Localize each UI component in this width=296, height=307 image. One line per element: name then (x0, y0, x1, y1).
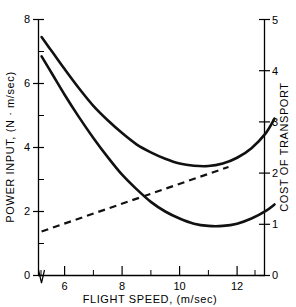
left-tick-label-6: 6 (24, 77, 30, 89)
left-axis-title: POWER INPUT, (N · m/sec) (4, 71, 16, 222)
left-tick-label-4: 4 (24, 141, 30, 153)
bottom-axis-ticks (41, 266, 255, 275)
series-power-input-lower (42, 56, 275, 226)
left-tick-label-8: 8 (24, 13, 30, 25)
bottom-tick-label-10: 10 (173, 280, 185, 292)
right-axis-title: COST OF TRANSPORT (278, 82, 290, 211)
left-axis-tick-labels: 0 2 4 6 8 (24, 13, 30, 281)
right-tick-label-5: 5 (272, 14, 278, 26)
left-tick-label-2: 2 (24, 205, 30, 217)
right-tick-label-0: 0 (272, 269, 278, 281)
left-tick-label-0: 0 (24, 269, 30, 281)
right-tick-label-4: 4 (272, 65, 278, 77)
right-tick-label-1: 1 (272, 218, 278, 230)
bottom-axis-title: FLIGHT SPEED, (m/sec) (83, 293, 218, 305)
chart-plot-area: 0 2 4 6 8 0 1 2 3 4 5 (0, 0, 296, 307)
chart-figure: 0 2 4 6 8 0 1 2 3 4 5 (0, 0, 296, 307)
bottom-tick-label-8: 8 (119, 280, 125, 292)
series-power-input-upper (42, 37, 275, 166)
bottom-tick-label-6: 6 (62, 280, 68, 292)
series-cost-of-transport (42, 167, 229, 232)
bottom-axis-tick-labels: 6 8 10 12 (62, 280, 244, 292)
bottom-tick-label-12: 12 (231, 280, 243, 292)
